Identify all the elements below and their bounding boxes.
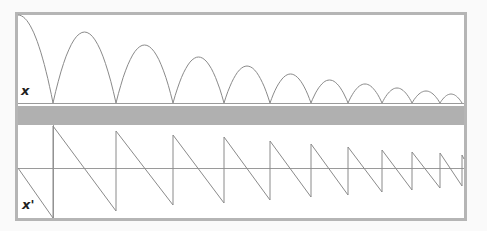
bouncing-ball-diagram bbox=[0, 0, 487, 231]
velocity-label: x' bbox=[22, 197, 34, 212]
position-label: x bbox=[21, 83, 29, 98]
separator-band bbox=[18, 106, 464, 125]
